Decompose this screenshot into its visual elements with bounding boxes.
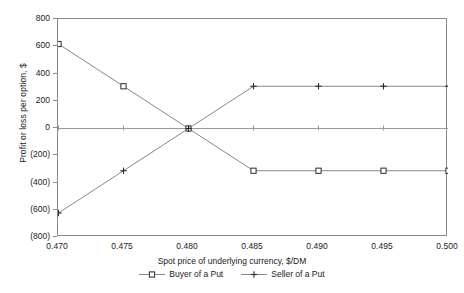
- plot-area: [57, 18, 447, 236]
- legend-plus-marker-icon: [241, 269, 267, 279]
- x-axis-tick-label: 0.500: [424, 241, 464, 251]
- data-point-marker: [381, 168, 386, 173]
- legend-square-marker-icon: [139, 269, 165, 279]
- y-axis-tick-label: (600): [8, 204, 50, 214]
- y-axis-tick-label: 200: [8, 95, 50, 105]
- data-point-marker: [446, 168, 448, 173]
- x-axis-tick-label: 0.485: [229, 241, 275, 251]
- x-axis-title: Spot price of underlying currency, $/DM: [0, 256, 464, 266]
- legend-label: Seller of a Put: [271, 270, 324, 279]
- y-axis-tick-label: (200): [8, 149, 50, 159]
- y-axis-tick-label: 800: [8, 13, 50, 23]
- chart-legend: Buyer of a PutSeller of a Put: [0, 269, 464, 279]
- x-axis-tick-label: 0.480: [164, 241, 210, 251]
- chart-figure: Profit or loss per option, $ 80060040020…: [0, 0, 464, 293]
- series-line: [59, 44, 449, 171]
- x-axis-tick-label: 0.475: [99, 241, 145, 251]
- data-point-marker: [445, 83, 448, 89]
- legend-item: Seller of a Put: [241, 269, 324, 279]
- y-axis-tick-label: 0: [8, 122, 50, 132]
- data-point-marker: [316, 168, 321, 173]
- data-point-marker: [58, 41, 61, 46]
- legend-item: Buyer of a Put: [139, 269, 223, 279]
- data-point-marker: [250, 83, 256, 89]
- data-point-marker: [120, 168, 126, 174]
- y-axis-tick-label: 600: [8, 40, 50, 50]
- data-point-marker: [251, 168, 256, 173]
- data-point-marker: [315, 83, 321, 89]
- data-point-marker: [380, 83, 386, 89]
- y-axis-tick-label: (800): [8, 231, 50, 241]
- data-point-marker: [121, 84, 126, 89]
- y-axis-tick-label: (400): [8, 177, 50, 187]
- series-line: [59, 86, 449, 213]
- x-axis-tick-label: 0.470: [34, 241, 80, 251]
- x-axis-tick-label: 0.490: [294, 241, 340, 251]
- y-axis-tick-label: 400: [8, 68, 50, 78]
- legend-label: Buyer of a Put: [169, 270, 223, 279]
- x-axis-tick-label: 0.495: [359, 241, 405, 251]
- series-canvas: [58, 19, 448, 237]
- y-axis-tick-mark: [53, 236, 57, 237]
